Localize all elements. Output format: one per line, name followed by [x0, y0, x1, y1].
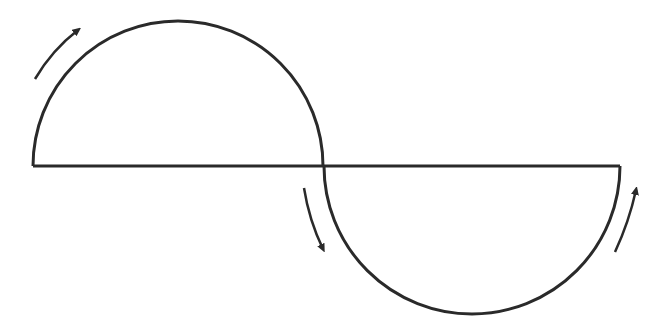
lower-semicircle [324, 166, 620, 314]
s-curve-diagram [0, 0, 666, 336]
upper-semicircle [33, 21, 323, 166]
lower-right-arrow-icon [615, 190, 636, 252]
center-down-arrow-icon [304, 188, 323, 249]
upper-left-arrow-icon [35, 30, 78, 79]
diagram-canvas [0, 0, 666, 336]
